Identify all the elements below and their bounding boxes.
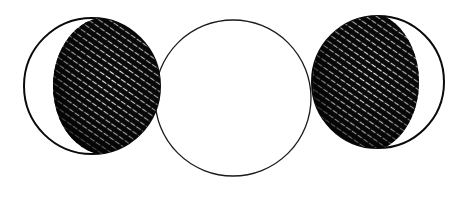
waning-crescent-moon [312, 12, 444, 152]
triple-moon-illustration [0, 0, 466, 198]
triple-moon-drawing [0, 0, 466, 198]
full-moon [155, 20, 311, 176]
waxing-crescent-moon [24, 17, 161, 155]
